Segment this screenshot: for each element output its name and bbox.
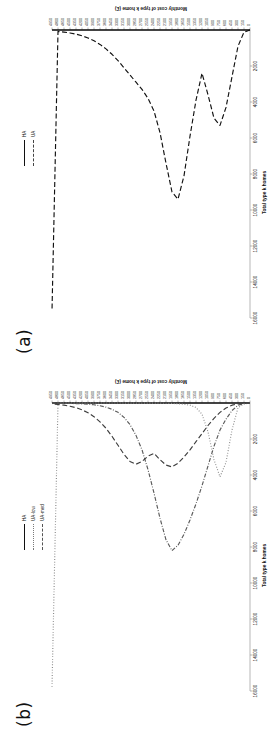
category-tick-label: 300 bbox=[236, 393, 240, 399]
category-tick-label: 1350 bbox=[194, 18, 198, 26]
category-tick-label: 4050 bbox=[86, 391, 90, 399]
value-tick-label: 8000 bbox=[254, 535, 259, 559]
category-tick-label: 3600 bbox=[104, 391, 108, 399]
category-tick-label: 750 bbox=[218, 393, 222, 399]
category-tick-label: 0 bbox=[248, 24, 252, 26]
category-tick-label: 1200 bbox=[200, 18, 204, 26]
category-tick-label: 4350 bbox=[74, 391, 78, 399]
series-line bbox=[52, 403, 250, 467]
category-tick-label: 3300 bbox=[116, 18, 120, 26]
category-tick-label: 1650 bbox=[182, 18, 186, 26]
panel-a-plot: 0150300450600750900105012001350150016501… bbox=[46, 26, 254, 326]
value-tick-label: 4000 bbox=[254, 90, 259, 114]
legend-item-ua-low: UA-low bbox=[29, 504, 38, 550]
value-tick-label: 16000 bbox=[254, 679, 259, 703]
category-tick-label: 4950 bbox=[50, 391, 54, 399]
category-tick-label: 4350 bbox=[74, 18, 78, 26]
legend-label: UA-low bbox=[31, 506, 36, 521]
category-tick-label: 1950 bbox=[170, 391, 174, 399]
category-tick-label: 3000 bbox=[128, 391, 132, 399]
legend-item-ha: HA bbox=[20, 504, 29, 550]
category-tick-label: 2850 bbox=[134, 18, 138, 26]
legend-key-dotted-icon bbox=[33, 524, 34, 550]
plot-canvas bbox=[46, 26, 254, 326]
category-tick-label: 600 bbox=[224, 393, 228, 399]
category-tick-label: 2850 bbox=[134, 391, 138, 399]
category-tick-label: 600 bbox=[224, 20, 228, 26]
value-tick-label: 8000 bbox=[254, 162, 259, 186]
category-tick-label: 1800 bbox=[176, 391, 180, 399]
category-tick-label: 3750 bbox=[98, 18, 102, 26]
category-tick-label: 2250 bbox=[158, 391, 162, 399]
category-tick-label: 3900 bbox=[92, 391, 96, 399]
legend-key-dashdot-icon bbox=[42, 524, 43, 550]
category-tick-label: 1650 bbox=[182, 391, 186, 399]
category-tick-label: 150 bbox=[242, 20, 246, 26]
category-tick-label: 300 bbox=[236, 20, 240, 26]
category-tick-label: 3300 bbox=[116, 391, 120, 399]
category-tick-label: 2400 bbox=[152, 18, 156, 26]
category-tick-label: 900 bbox=[212, 20, 216, 26]
category-axis-title: Monthly cost of type k home (£) bbox=[115, 6, 187, 11]
category-tick-label: 2100 bbox=[164, 18, 168, 26]
value-tick-label: 16000 bbox=[254, 306, 259, 330]
value-axis-title: Total type k homes bbox=[262, 171, 267, 214]
legend-label: HA bbox=[22, 515, 27, 521]
value-tick-label: 12000 bbox=[254, 234, 259, 258]
category-tick-label: 150 bbox=[242, 393, 246, 399]
category-tick-label: 0 bbox=[248, 397, 252, 399]
series-line bbox=[52, 30, 250, 311]
category-tick-label: 2700 bbox=[140, 18, 144, 26]
category-tick-label: 1050 bbox=[206, 391, 210, 399]
category-tick-label: 4650 bbox=[62, 391, 66, 399]
category-tick-label: 3750 bbox=[98, 391, 102, 399]
legend-key-solid-icon bbox=[24, 140, 25, 166]
panel-a: (a) HA UA 015030045060075090010501200135… bbox=[0, 0, 272, 372]
category-tick-label: 4050 bbox=[86, 18, 90, 26]
category-tick-label: 3600 bbox=[104, 18, 108, 26]
category-tick-label: 900 bbox=[212, 393, 216, 399]
category-tick-label: 2550 bbox=[146, 18, 150, 26]
legend-label: UA bbox=[31, 131, 36, 137]
panel-a-legend: HA UA bbox=[20, 131, 38, 166]
category-tick-label: 3000 bbox=[128, 18, 132, 26]
category-tick-label: 4200 bbox=[80, 391, 84, 399]
category-tick-label: 1500 bbox=[188, 18, 192, 26]
legend-label: UA-med bbox=[40, 504, 45, 521]
legend-key-solid-icon bbox=[24, 524, 25, 550]
value-tick-label: 2000 bbox=[254, 427, 259, 451]
category-tick-label: 3450 bbox=[110, 18, 114, 26]
value-tick-label: 10000 bbox=[254, 571, 259, 595]
category-tick-label: 1350 bbox=[194, 391, 198, 399]
legend-item-ha: HA bbox=[20, 131, 29, 166]
panel-b-label: (b) bbox=[14, 701, 34, 727]
category-tick-label: 2700 bbox=[140, 391, 144, 399]
category-tick-label: 2400 bbox=[152, 391, 156, 399]
value-tick-label: 6000 bbox=[254, 499, 259, 523]
category-tick-label: 3150 bbox=[122, 391, 126, 399]
category-tick-label: 3450 bbox=[110, 391, 114, 399]
category-tick-label: 4650 bbox=[62, 18, 66, 26]
plot-canvas bbox=[46, 399, 254, 699]
category-tick-label: 1500 bbox=[188, 391, 192, 399]
category-tick-label: 3900 bbox=[92, 18, 96, 26]
category-tick-label: 4500 bbox=[68, 18, 72, 26]
panel-b-plot: 0150300450600750900105012001350150016501… bbox=[46, 399, 254, 699]
category-tick-label: 450 bbox=[230, 20, 234, 26]
panel-a-label: (a) bbox=[14, 329, 34, 354]
category-tick-label: 4800 bbox=[56, 391, 60, 399]
series-line bbox=[52, 403, 250, 551]
panel-b: (b) HA UA-low UA-med UA-high 01503004506… bbox=[0, 373, 272, 745]
category-tick-label: 2550 bbox=[146, 391, 150, 399]
category-tick-label: 4950 bbox=[50, 18, 54, 26]
figure-root: (b) HA UA-low UA-med UA-high 01503004506… bbox=[0, 0, 272, 745]
value-tick-label: 14000 bbox=[254, 643, 259, 667]
category-tick-label: 450 bbox=[230, 393, 234, 399]
value-tick-label: 6000 bbox=[254, 126, 259, 150]
category-tick-label: 4800 bbox=[56, 18, 60, 26]
legend-key-dashed-icon bbox=[33, 140, 34, 166]
category-tick-label: 4500 bbox=[68, 391, 72, 399]
value-tick-label: 10000 bbox=[254, 198, 259, 222]
category-tick-label: 1200 bbox=[200, 391, 204, 399]
category-tick-label: 1800 bbox=[176, 18, 180, 26]
